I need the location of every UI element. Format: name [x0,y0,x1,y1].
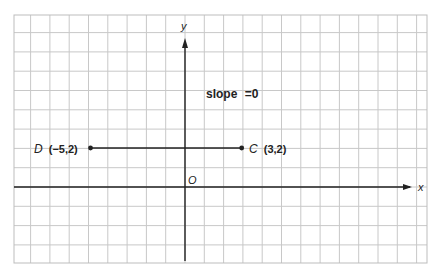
point-d-coords: (−5,2) [49,143,78,155]
slope-equals: =0 [245,87,259,101]
origin-label: O [188,175,197,186]
y-axis-label: y [181,21,187,32]
point-d-label: D (−5,2) [34,143,78,155]
coordinate-grid [0,0,441,279]
point-d-dot [88,146,93,151]
y-axis-arrow-icon [182,38,188,48]
x-axis-arrow-icon [403,184,412,190]
slope-annotation: slope =0 [206,88,258,100]
slope-word: slope [206,87,237,101]
point-d-name: D [34,142,43,156]
point-c-name: C [249,142,258,156]
point-c-label: C (3,2) [249,143,286,155]
point-c-coords: (3,2) [264,143,287,155]
x-axis-label: x [418,182,424,193]
point-c-dot [239,146,244,151]
